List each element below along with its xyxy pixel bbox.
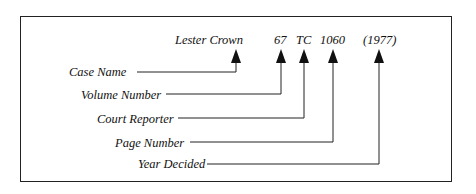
arrow-up-icon <box>328 49 338 63</box>
connector-year <box>207 62 379 164</box>
connector-volume <box>166 62 281 94</box>
arrow-up-icon <box>231 49 241 63</box>
connector-page <box>190 62 333 142</box>
connector-lines <box>0 0 476 194</box>
connector-reporter <box>178 62 304 118</box>
arrow-up-icon <box>299 49 309 63</box>
arrow-up-icon <box>276 49 286 63</box>
connector-case-name <box>137 62 236 72</box>
arrow-up-icon <box>374 49 384 63</box>
